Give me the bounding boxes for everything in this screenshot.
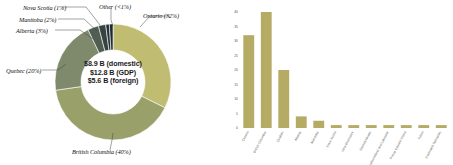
bar-series	[243, 12, 446, 128]
x-axis-tick-label: New Brunswick	[341, 130, 355, 152]
x-axis-tick-label: Yukon	[417, 130, 425, 140]
bar	[418, 125, 429, 128]
donut-label-manitoba: Manitoba (2%)	[19, 16, 56, 23]
donut-label-british-columbia: British Columbia (40%)	[72, 148, 131, 155]
donut-label-quebec: Quebec (20%)	[6, 67, 41, 74]
donut-center-text: $8.9 B (domestic) $12.8 B (GDP) $5.6 B (…	[56, 60, 170, 86]
bar-chart-svg: 0510152025303540 OntarioBritish Columbia…	[226, 0, 453, 165]
y-axis: 0510152025303540	[234, 10, 238, 130]
x-axis-tick-label: Quebec	[276, 130, 285, 142]
bar	[348, 125, 359, 128]
y-axis-tick-label: 30	[234, 39, 238, 43]
donut-label-nova-scotia: Nova Scotia (1%)	[23, 4, 66, 11]
y-axis-tick-label: 5	[236, 112, 238, 116]
bar	[313, 121, 324, 128]
bar	[331, 125, 342, 128]
x-axis-tick-label: Alberta	[294, 130, 303, 141]
y-axis-tick-label: 20	[234, 68, 238, 72]
x-axis-tick-label: Manitoba	[310, 130, 320, 144]
bar	[296, 116, 307, 128]
bar	[383, 125, 394, 128]
y-axis-tick-label: 25	[234, 54, 238, 58]
bar	[436, 125, 447, 128]
center-line-foreign: $5.6 B (foreign)	[56, 77, 170, 86]
donut-label-ontario: Ontario (32%)	[143, 12, 179, 19]
x-axis-tick-label: British Columbia	[252, 130, 267, 153]
x-axis-tick-label: Ontario	[241, 130, 250, 142]
x-axis-tick-label: Nova Scotia	[325, 130, 337, 148]
bar	[401, 125, 412, 128]
figure-container: $8.9 B (domestic) $12.8 B (GDP) $5.6 B (…	[0, 0, 453, 165]
y-axis-tick-label: 15	[234, 83, 238, 87]
x-axis-tick-label: Saskatchewan	[359, 130, 373, 151]
x-axis-tick-label: Northwest Territories	[424, 130, 442, 159]
y-axis-tick-label: 10	[234, 97, 238, 101]
bar	[261, 12, 272, 128]
y-axis-tick-label: 40	[234, 10, 238, 14]
x-axis-tick-label: Prince Edward Island	[389, 130, 407, 160]
y-axis-tick-label: 35	[234, 25, 238, 29]
bar	[366, 125, 377, 128]
bar-chart-panel: 0510152025303540 OntarioBritish Columbia…	[226, 0, 453, 165]
donut-label-alberta: Alberta (3%)	[16, 27, 48, 34]
donut-chart-panel: $8.9 B (domestic) $12.8 B (GDP) $5.6 B (…	[0, 0, 226, 165]
bar	[278, 70, 289, 128]
donut-label-other: Other (<1%)	[99, 3, 131, 10]
bar	[243, 35, 254, 128]
y-axis-tick-label: 0	[236, 126, 238, 130]
x-axis: OntarioBritish ColumbiaQuebecAlbertaMani…	[241, 130, 442, 165]
